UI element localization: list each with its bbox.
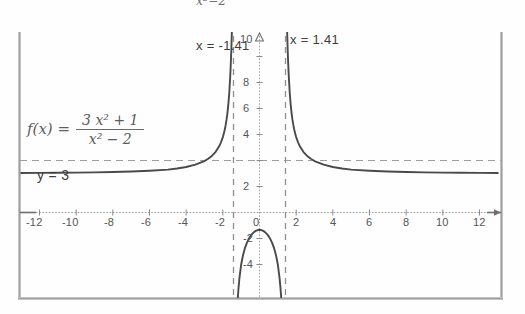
curve-right-branch <box>286 0 498 173</box>
x-tick-label--10: -10 <box>62 216 79 228</box>
x-tick-label-4: 4 <box>330 216 336 228</box>
y-tick-label-8: 8 <box>243 76 249 88</box>
y-tick-label-4: 4 <box>243 128 249 140</box>
x-tick-label-2: 2 <box>293 216 299 228</box>
x-tick-label-10: 10 <box>436 216 449 228</box>
x-tick-label--4: -4 <box>178 216 188 228</box>
x-tick-label--6: -6 <box>141 216 151 228</box>
x-axis-arrowhead <box>494 209 501 215</box>
y-tick-label-2: 2 <box>243 180 249 192</box>
figure-canvas: x²−2 <box>0 0 525 314</box>
formula-lhs: f(x) = <box>27 120 70 138</box>
annotation-horizontal-asymptote: y = 3 <box>37 167 69 183</box>
formula-fraction: 3 x² + 1x² − 2 <box>76 112 144 147</box>
curve-left-branch <box>21 0 233 173</box>
x-tick-label-12: 12 <box>473 216 486 228</box>
y-tick-label--4: -4 <box>243 258 253 270</box>
graph-plot-area <box>0 0 525 314</box>
x-tick-label-6: 6 <box>366 216 372 228</box>
annotation-right-asymptote: x = 1.41 <box>290 32 339 47</box>
x-tick-label--2: -2 <box>215 216 225 228</box>
x-tick-label--12: -12 <box>26 216 43 228</box>
x-tick-label--8: -8 <box>104 216 114 228</box>
x-tick-label-8: 8 <box>403 216 409 228</box>
formula-denominator: x² − 2 <box>76 129 144 147</box>
function-formula: f(x) =3 x² + 1x² − 2 <box>27 112 144 147</box>
annotation-left-asymptote: x = -1.41 <box>196 38 250 53</box>
formula-numerator: 3 x² + 1 <box>76 112 144 129</box>
y-tick-label-6: 6 <box>243 102 249 114</box>
x-tick-label-0: 0 <box>253 216 259 228</box>
curve-middle-branch <box>234 230 286 314</box>
y-tick-label--2: -2 <box>243 232 253 244</box>
